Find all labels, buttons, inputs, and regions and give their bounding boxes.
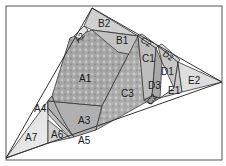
label-A3: A3 [78, 115, 91, 126]
label-A4: A4 [34, 103, 47, 114]
label-D1: D1 [161, 66, 174, 77]
label-C3: C3 [121, 88, 134, 99]
label-A7: A7 [25, 132, 38, 143]
label-A1: A1 [79, 73, 92, 84]
label-A5: A5 [78, 135, 91, 146]
paper-piecing-diagram: B2 A2 B1 C2 D2 C1 A1 D1 E2 D3 C3 E1 C2 A… [0, 0, 226, 166]
label-E2: E2 [188, 75, 201, 86]
label-C1: C1 [142, 53, 155, 64]
label-B2: B2 [98, 18, 111, 29]
label-D3: D3 [148, 80, 161, 91]
label-E1: E1 [168, 85, 181, 96]
label-A6: A6 [51, 129, 64, 140]
label-B1: B1 [116, 35, 129, 46]
